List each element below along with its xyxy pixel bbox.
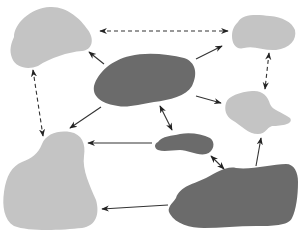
edge-top-right-right-middle — [265, 53, 269, 89]
edge-center-top-right — [196, 46, 222, 59]
edge-center-small-middle — [160, 106, 172, 130]
node-bottom-right — [169, 164, 298, 228]
edge-center-right-middle — [196, 96, 221, 103]
edge-center-top-left — [89, 52, 104, 64]
network-diagram — [0, 0, 304, 236]
edge-small-middle-bottom-right — [211, 156, 224, 169]
edge-bottom-right-bottom-left — [102, 205, 168, 209]
node-bottom-left — [3, 132, 97, 231]
node-top-right — [232, 15, 295, 50]
edge-center-bottom-left — [70, 107, 101, 128]
node-center — [94, 54, 195, 107]
node-small-middle — [155, 133, 213, 154]
node-top-left — [11, 7, 92, 68]
edge-top-left-bottom-left — [33, 70, 43, 136]
edge-bottom-right-right-middle — [256, 138, 261, 166]
node-right-middle — [225, 91, 291, 134]
